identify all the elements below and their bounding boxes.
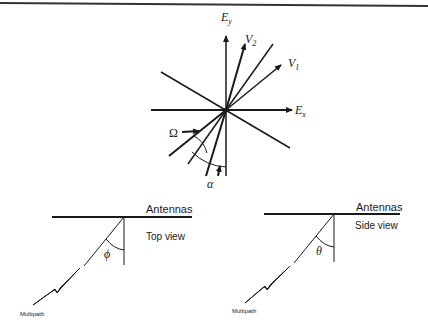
side-antennas-label: Antennas [356, 201, 403, 213]
omega-arrow [182, 131, 199, 132]
omega-label: Ω [169, 126, 178, 140]
v1-label: V1 [288, 56, 299, 72]
v2-label: V2 [245, 32, 256, 48]
vector-v2 [226, 44, 245, 110]
ey-label: Ey [220, 10, 232, 26]
multipath-bolt [33, 268, 80, 305]
side-view-label: Side view [355, 220, 399, 231]
top-view-label: Top view [146, 231, 186, 242]
multipath-bolt [245, 266, 290, 303]
top-rule [0, 3, 428, 6]
alpha-label: α [207, 177, 214, 191]
diagram-canvas: Ey V2 V1 Ex Ω α Antennas Top view ϕ Mult… [0, 0, 428, 331]
ex-label: Ex [294, 103, 306, 119]
vector-diagram [151, 36, 292, 176]
alpha-arrow [218, 166, 220, 176]
top-antennas-label: Antennas [146, 203, 193, 215]
diagram-svg: Ey V2 V1 Ex Ω α Antennas Top view ϕ Mult… [0, 0, 428, 331]
theta-label: θ [316, 244, 322, 258]
incidence-line [294, 214, 334, 263]
top-multipath-label: Multipath [20, 311, 44, 317]
origin-dot [224, 108, 228, 112]
side-multipath-label: Multipath [232, 308, 256, 314]
phi-label: ϕ [104, 247, 110, 261]
